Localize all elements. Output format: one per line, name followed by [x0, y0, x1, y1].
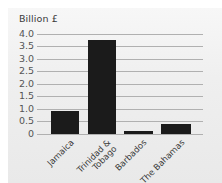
gridline [37, 34, 203, 35]
y-tick-label: 0.5 [4, 116, 34, 126]
y-tick-label: 2.0 [4, 79, 34, 89]
y-tick-label: 0 [4, 129, 34, 139]
bar-jamaica [51, 111, 79, 134]
gridline [37, 71, 203, 72]
gridline [37, 59, 203, 60]
gridline [37, 84, 203, 85]
gridline [37, 134, 203, 135]
y-tick-label: 3.0 [4, 54, 34, 64]
y-tick-label: 1.0 [4, 104, 34, 114]
gridline [37, 96, 203, 97]
bar-barbados [124, 131, 153, 134]
bar-the-bahamas [161, 124, 191, 134]
bar-trinidad-tobago [88, 40, 116, 134]
y-tick-label: 3.5 [4, 41, 34, 51]
y-axis-unit-label: Billion £ [19, 13, 58, 24]
y-tick-label: 1.5 [4, 91, 34, 101]
y-tick-label: 2.5 [4, 66, 34, 76]
gridline [37, 109, 203, 110]
gridline [37, 46, 203, 47]
y-tick-label: 4.0 [4, 29, 34, 39]
